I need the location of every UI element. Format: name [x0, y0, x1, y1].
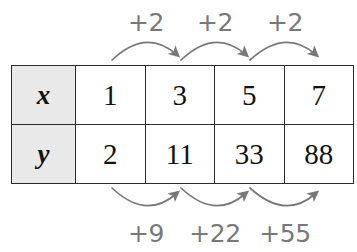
top-arrow-label-3: +2	[267, 10, 303, 35]
function-table-diagram: +2 +2 +2 +9 +22 +55 x 1 3 5 7 y 2 11 33 …	[0, 0, 357, 252]
top-arrow-1	[112, 42, 176, 60]
table-row-x: x 1 3 5 7	[12, 66, 354, 125]
bottom-arrow-1	[112, 188, 176, 206]
top-arrow-label-1: +2	[128, 10, 164, 35]
cell-y-3: 33	[215, 125, 285, 184]
table-row-y: y 2 11 33 88	[12, 125, 354, 184]
bottom-arrow-group	[112, 188, 315, 206]
top-arrow-2	[181, 42, 245, 60]
bottom-arrow-2	[181, 188, 245, 206]
cell-x-1: 1	[76, 66, 146, 125]
top-arrow-group	[112, 42, 315, 60]
cell-x-2: 3	[145, 66, 215, 125]
bottom-arrow-label-2: +22	[189, 221, 240, 246]
bottom-arrow-3	[250, 188, 315, 206]
top-arrow-3	[250, 42, 315, 60]
bottom-arrow-label-1: +9	[128, 221, 164, 246]
cell-y-1: 2	[76, 125, 146, 184]
row-header-x: x	[12, 66, 76, 125]
value-table: x 1 3 5 7 y 2 11 33 88	[11, 65, 354, 184]
cell-x-4: 7	[284, 66, 354, 125]
row-header-y: y	[12, 125, 76, 184]
cell-y-4: 88	[284, 125, 354, 184]
top-arrow-label-2: +2	[197, 10, 233, 35]
bottom-arrow-label-3: +55	[259, 221, 310, 246]
cell-y-2: 11	[145, 125, 215, 184]
cell-x-3: 5	[215, 66, 285, 125]
